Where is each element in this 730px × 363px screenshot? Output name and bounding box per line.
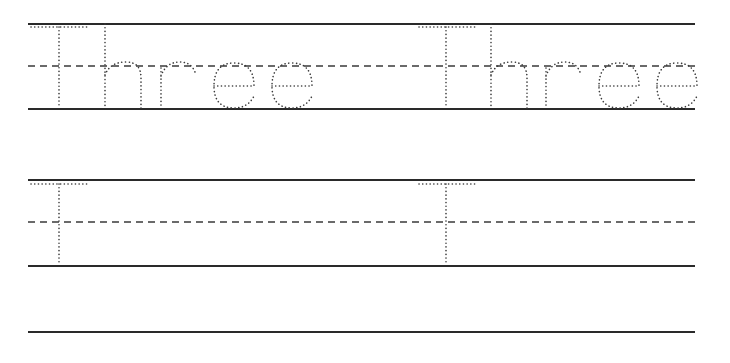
letter-e (214, 63, 254, 108)
letter-r (161, 62, 195, 108)
row-1-guides (28, 24, 695, 109)
letter-T (419, 184, 475, 264)
letter-e (599, 63, 639, 108)
row-2-guides (28, 180, 695, 266)
letter-r (546, 62, 580, 108)
letter-T (31, 184, 88, 264)
letter-T (31, 27, 88, 108)
letter-h (105, 24, 141, 108)
worksheet-canvas (0, 0, 730, 363)
letter-e (657, 63, 697, 108)
handwriting-worksheet (0, 0, 730, 363)
traced-letter-t-2 (419, 184, 475, 264)
letter-e (272, 63, 312, 108)
letter-T (419, 27, 475, 108)
traced-letter-t-1 (31, 184, 88, 264)
